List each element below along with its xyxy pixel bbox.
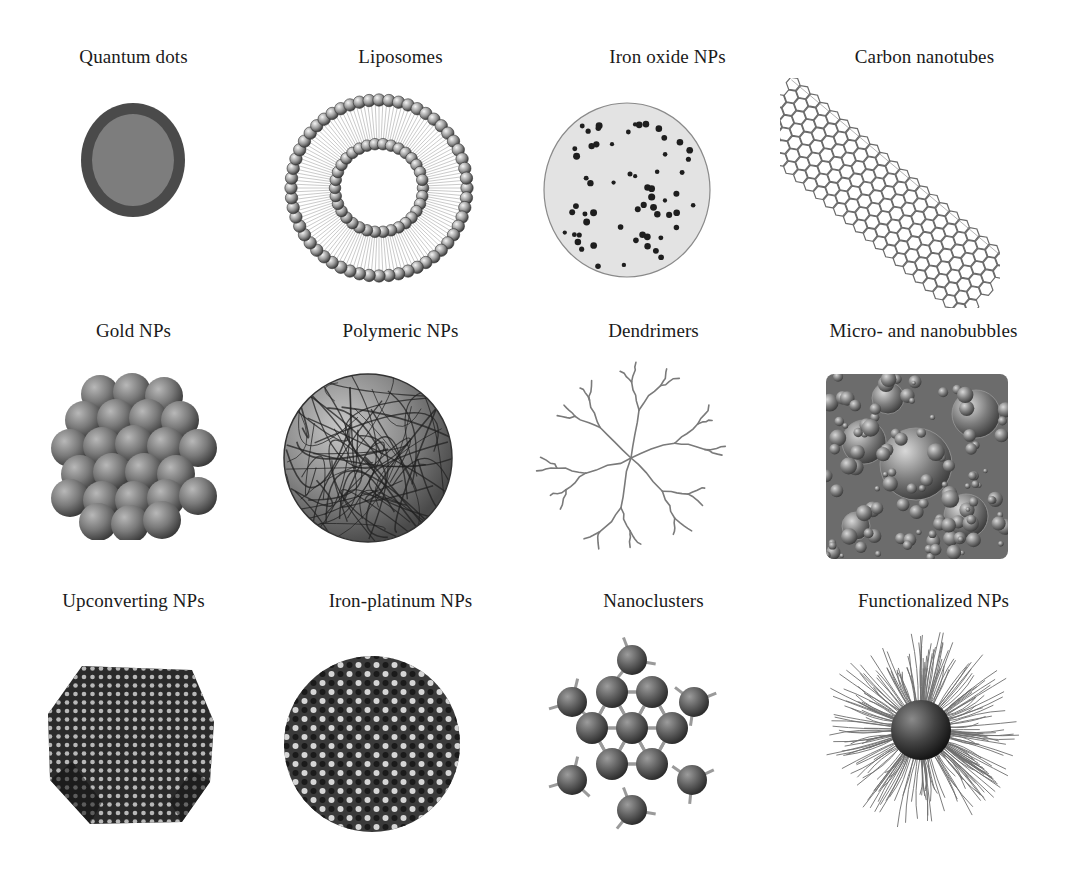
panel-functionalized-nps: Functionalized NPs [800,580,1067,877]
polymeric-np-illustration [282,368,457,548]
liposome-illustration [279,88,479,288]
panel-gold-nps: Gold NPs [0,300,267,580]
panel-label: Polymeric NPs [267,320,534,342]
polymeric-np-graphic [282,368,457,548]
upconverting-np-illustration [42,652,222,832]
liposome-graphic [279,88,479,288]
bubbles-graphic [826,374,1008,559]
panel-label: Liposomes [267,46,534,68]
bubbles-illustration [826,374,1008,559]
iron-oxide-illustration [541,100,716,280]
panel-liposomes: Liposomes [267,0,534,300]
panel-dendrimers: Dendrimers [520,300,787,580]
nanocluster-graphic [542,632,737,842]
functionalized-np-illustration [824,626,1019,841]
iron-oxide-graphic [541,100,716,280]
panel-micro-nanobubbles: Micro- and nanobubbles [800,300,1067,580]
panel-quantum-dots: Quantum dots [0,0,267,300]
panel-label: Nanoclusters [520,590,787,612]
panel-label: Iron-platinum NPs [267,590,534,612]
panel-iron-platinum-nps: Iron-platinum NPs [267,580,534,877]
panel-upconverting-nps: Upconverting NPs [0,580,267,877]
panel-label: Dendrimers [520,320,787,342]
gold-np-illustration [40,370,225,540]
gold-cluster-graphic [40,370,225,540]
nanotube-graphic [780,78,1000,308]
panel-label: Gold NPs [0,320,267,342]
carbon-nanotube-illustration [780,78,1000,308]
iron-platinum-illustration [282,646,462,836]
upconverting-np-graphic [42,652,222,832]
panel-label: Iron oxide NPs [534,46,801,68]
panel-nanoclusters: Nanoclusters [520,580,787,877]
panel-label: Upconverting NPs [0,590,267,612]
panel-polymeric-nps: Polymeric NPs [267,300,534,580]
quantum-dot-graphic [78,100,188,220]
panel-label: Quantum dots [0,46,267,68]
iron-platinum-graphic [282,646,462,836]
panel-label: Carbon nanotubes [780,46,1069,68]
quantum-dot-illustration [78,100,188,220]
panel-carbon-nanotubes: Carbon nanotubes [780,0,1069,300]
panel-iron-oxide-nps: Iron oxide NPs [534,0,801,300]
functionalized-np-graphic [824,626,1019,841]
panel-label: Micro- and nanobubbles [790,320,1057,342]
dendrimer-illustration [526,348,736,563]
panel-label: Functionalized NPs [800,590,1067,612]
dendrimer-graphic [526,348,736,563]
nanocluster-illustration [542,632,737,842]
